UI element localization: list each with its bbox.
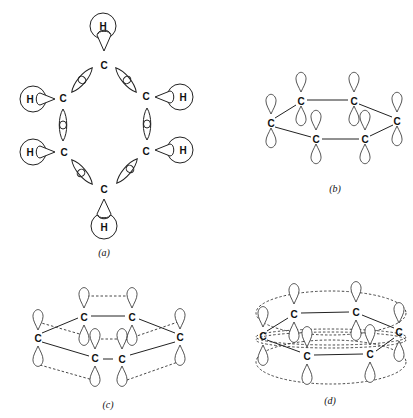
p-orbitals xyxy=(266,72,402,163)
atom-label: C xyxy=(80,312,87,323)
carbon-atoms: C C C C C C xyxy=(59,60,149,195)
sigma-bonds xyxy=(59,65,151,186)
atom-label: H xyxy=(99,21,106,32)
atom-label: H xyxy=(26,147,33,158)
panel-c-localized-pi: C C C C C C (c) xyxy=(33,288,185,411)
atom-label: H xyxy=(179,92,186,103)
atom-label: C xyxy=(100,184,107,195)
ring-bonds xyxy=(42,316,175,359)
panel-caption: (d) xyxy=(324,395,336,407)
benzene-orbital-diagram: H H H H H H xyxy=(0,0,413,418)
carbon-atoms: C C C C C C xyxy=(259,307,402,362)
panel-a-sigma-framework: H H H H H H xyxy=(20,13,193,259)
hydrogen-lower-left: H xyxy=(20,139,55,165)
hydrogen-lower-right: H xyxy=(155,137,193,163)
atom-label: H xyxy=(26,94,33,105)
atom-label: C xyxy=(60,147,67,158)
pi-cloud-rings xyxy=(256,291,406,384)
pi-overlap-dashes xyxy=(38,296,178,380)
hydrogen-upper-right: H xyxy=(155,84,193,110)
atom-label: C xyxy=(100,60,107,71)
panel-caption: (c) xyxy=(102,399,114,411)
atom-label: C xyxy=(142,91,149,102)
atom-label: C xyxy=(312,134,319,145)
atom-label: C xyxy=(366,349,373,360)
panel-d-delocalized-pi: C C C C C C (d) xyxy=(256,282,406,407)
atom-label: C xyxy=(128,312,135,323)
atom-label: C xyxy=(59,93,66,104)
carbon-atoms: C C C C C C xyxy=(267,96,400,145)
atom-label: C xyxy=(142,146,149,157)
atom-label: C xyxy=(395,327,402,338)
atom-label: C xyxy=(303,351,310,362)
atom-label: C xyxy=(118,354,125,365)
atom-label: C xyxy=(297,96,304,107)
hydrogen-bottom: H xyxy=(91,199,117,239)
hydrogen-top: H xyxy=(90,13,116,51)
hydrogen-upper-left: H xyxy=(20,86,55,112)
atom-label: C xyxy=(34,333,41,344)
atom-label: C xyxy=(91,353,98,364)
ring-bonds xyxy=(275,100,393,139)
atom-label: C xyxy=(267,118,274,129)
atom-label: C xyxy=(290,309,297,320)
panel-b-p-orbitals: C C C C C C (b) xyxy=(266,72,402,195)
atom-label: C xyxy=(259,331,266,342)
atom-label: C xyxy=(361,134,368,145)
atom-label: C xyxy=(176,332,183,343)
panel-caption: (a) xyxy=(98,247,110,259)
atom-label: H xyxy=(179,145,186,156)
atom-label: C xyxy=(393,116,400,127)
atom-label: C xyxy=(352,307,359,318)
panel-caption: (b) xyxy=(329,183,341,195)
p-orbitals xyxy=(33,288,185,387)
atom-label: C xyxy=(350,96,357,107)
carbon-atoms: C C C C C C xyxy=(34,312,183,365)
atom-label: H xyxy=(100,222,107,233)
